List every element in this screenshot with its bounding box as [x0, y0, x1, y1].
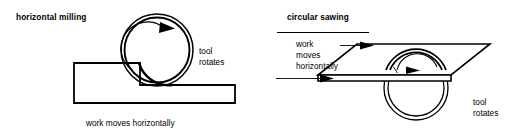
saw-work-moves-line2: moves: [296, 50, 320, 60]
saw-work-moves-line1: work: [295, 39, 314, 49]
horizontal-milling-title: horizontal milling: [16, 12, 86, 22]
saw-work-moves-line3: horizontally: [296, 61, 339, 71]
saw-table-top-plate: [318, 44, 490, 75]
panel-horizontal-milling: horizontal milling tool rotates work mov…: [16, 12, 235, 128]
saw-tool-rotates-line1: tool: [473, 97, 487, 107]
diagram-canvas: horizontal milling tool rotates work mov…: [0, 0, 514, 135]
circular-sawing-title: circular sawing: [287, 12, 349, 22]
milling-tool-rotates-line1: tool: [199, 46, 213, 56]
milling-cutter-inner-circle: [125, 18, 190, 83]
saw-table-edge-thickness: [318, 75, 451, 81]
saw-tool-rotates-line2: rotates: [473, 108, 498, 118]
panel-circular-sawing: circular sawing work moves h: [276, 12, 498, 120]
machining-diagram: horizontal milling tool rotates work mov…: [0, 0, 514, 135]
milling-work-caption: work moves horizontally: [85, 118, 175, 128]
milling-rotation-arrowhead: [159, 22, 175, 33]
milling-cutter-outer-circle: [121, 14, 193, 86]
milling-tool-rotates-line2: rotates: [199, 57, 224, 67]
